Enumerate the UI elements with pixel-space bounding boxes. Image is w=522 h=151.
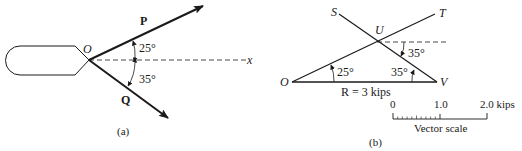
point-s-label: S [331, 5, 337, 19]
angle-q-label: 35° [139, 72, 156, 86]
vector-scale: 0 1.0 2.0 kips [390, 98, 515, 134]
vector-diagram-figure: O P Q x 25° 35° (a) O V [0, 0, 522, 151]
point-u-label: U [375, 23, 385, 37]
angle-arc-25-icon [133, 41, 135, 58]
barge-shape [6, 46, 90, 75]
panel-a: O P Q x 25° 35° (a) [6, 6, 254, 138]
caption-b: (b) [369, 136, 382, 149]
point-v-label: V [440, 75, 449, 89]
angle-o-label: 25° [337, 65, 354, 79]
point-t-label: T [439, 6, 447, 20]
angle-arc-35-icon [128, 62, 135, 86]
angle-arc-o-icon [331, 65, 334, 82]
angle-arc-v-icon [412, 70, 414, 82]
force-p-label: P [140, 14, 147, 28]
scale-tick-2-label: 2.0 kips [480, 98, 515, 110]
angle-v-label: 35° [391, 65, 408, 79]
scale-tick-1-label: 1.0 [434, 98, 448, 110]
scale-minor-ticks [398, 116, 436, 120]
angle-arc-u-icon [401, 42, 404, 56]
x-axis-label: x [246, 53, 253, 67]
scale-tick-0-label: 0 [390, 98, 396, 110]
scale-title: Vector scale [414, 122, 468, 134]
angle-u-label: 35° [408, 46, 425, 60]
force-q-arrow [89, 60, 168, 118]
resultant-label: R = 3 kips [341, 85, 391, 99]
point-o-label: O [280, 75, 289, 89]
caption-a: (a) [117, 125, 130, 138]
force-q-label: Q [121, 93, 130, 107]
panel-b: O V U S T 25° 35° 35° R = 3 kips 0 1.0 2… [280, 5, 515, 149]
origin-label-a: O [83, 42, 92, 56]
angle-p-label: 25° [139, 41, 156, 55]
